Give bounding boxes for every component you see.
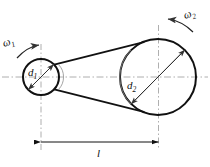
belt-lower-tangent — [54, 89, 144, 112]
curved-arrow-icon-right — [168, 19, 193, 32]
length-label: l — [97, 147, 100, 159]
d1-label: d1 — [28, 66, 37, 81]
omega2-label: ω2 — [182, 6, 198, 24]
omega1-label: ω1 — [1, 34, 17, 52]
d2-label: d2 — [127, 79, 137, 94]
figure-labels: ω1 ω2 d1 d2 l — [1, 6, 198, 159]
belt-upper-tangent — [54, 42, 144, 65]
belt-drive-diagram: ω1 ω2 d1 d2 l — [0, 0, 210, 167]
curved-arrow-icon-left — [17, 45, 39, 58]
